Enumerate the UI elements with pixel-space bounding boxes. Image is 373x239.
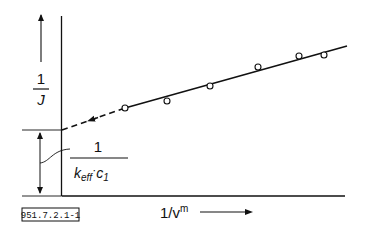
intercept-numerator: 1 [94, 138, 102, 155]
leader-curve [40, 149, 70, 163]
data-point [164, 98, 170, 104]
diagram-canvas: 1 J 1 keff·c1 1/vm 951.7.2.1-1 [0, 0, 373, 239]
intercept-label: 1 keff·c1 [70, 138, 128, 183]
y-label-numerator: 1 [37, 70, 45, 87]
y-axis-label: 1 J [33, 70, 49, 108]
x-axis-label: 1/vm [160, 203, 188, 221]
data-point [122, 105, 128, 111]
data-point [296, 53, 302, 59]
data-point [321, 52, 327, 58]
figure-id-label: 951.7.2.1-1 [21, 211, 80, 221]
extrapolation-arrow-icon [90, 118, 98, 121]
data-point [207, 83, 213, 89]
intercept-denominator: keff·c1 [74, 163, 109, 183]
fit-line [125, 46, 347, 108]
data-point [255, 64, 261, 70]
y-label-denominator: J [36, 91, 45, 108]
